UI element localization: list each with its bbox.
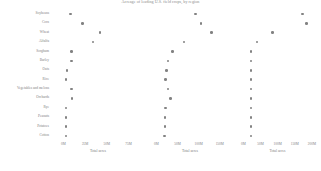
category-label: Orchards xyxy=(36,97,49,101)
data-point xyxy=(250,88,253,91)
x-tick-label: 100M xyxy=(195,142,203,146)
data-point xyxy=(164,125,167,128)
category-label: Soybeans xyxy=(36,12,49,16)
data-point xyxy=(165,69,168,72)
data-point xyxy=(99,31,102,34)
data-point xyxy=(164,116,167,119)
plot-area xyxy=(54,0,142,142)
data-point xyxy=(65,135,68,138)
data-point xyxy=(183,41,186,44)
data-point xyxy=(65,125,68,128)
data-point xyxy=(250,97,253,100)
data-point xyxy=(70,50,73,53)
category-label: Barley xyxy=(40,59,49,63)
x-tick-label: 150M xyxy=(291,142,299,146)
facet-panel-1: 0M25M50M75MTotal acres xyxy=(54,0,142,150)
plot-area xyxy=(234,0,321,142)
data-point xyxy=(171,50,174,53)
data-point xyxy=(210,31,213,34)
x-tick-label: 100M xyxy=(274,142,282,146)
x-tick-label: 0M xyxy=(154,142,159,146)
x-axis-ticks: 0M50M100M150M200M xyxy=(234,142,321,148)
category-label: Sorghum xyxy=(36,50,49,54)
data-point xyxy=(167,88,170,91)
facet-panel-2: 0M50M100M150MTotal acres xyxy=(147,0,233,150)
category-label: Vegetables and melons xyxy=(17,87,49,91)
data-point xyxy=(250,78,253,81)
facet-panel-3: 0M50M100M150M200MTotal acres xyxy=(234,0,321,150)
x-tick-label: 0M xyxy=(241,142,246,146)
data-point xyxy=(66,69,69,72)
x-tick-label: 200M xyxy=(308,142,316,146)
category-label: Corn xyxy=(42,22,49,26)
data-point xyxy=(250,135,253,138)
data-point xyxy=(69,13,72,16)
data-point xyxy=(250,116,253,119)
data-point xyxy=(301,13,304,16)
category-axis: SoybeansCornWheatAlfalfaSorghumBarleyOat… xyxy=(0,0,52,150)
x-tick-label: 0M xyxy=(61,142,66,146)
data-point xyxy=(70,88,73,91)
data-point xyxy=(256,41,259,44)
x-tick-label: 50M xyxy=(257,142,263,146)
data-point xyxy=(250,69,253,72)
data-point xyxy=(169,97,172,100)
data-point xyxy=(200,22,203,25)
data-point xyxy=(250,125,253,128)
category-label: Alfalfa xyxy=(39,40,49,44)
data-point xyxy=(164,78,167,81)
data-point xyxy=(71,97,74,100)
category-label: Wheat xyxy=(40,31,49,35)
data-point xyxy=(164,107,167,110)
data-point xyxy=(194,13,197,16)
data-point xyxy=(305,22,308,25)
x-tick-label: 50M xyxy=(104,142,110,146)
data-point xyxy=(250,60,253,63)
category-label: Peanuts xyxy=(38,115,49,119)
category-label: Potatoes xyxy=(37,125,49,129)
x-tick-label: 150M xyxy=(216,142,224,146)
data-point xyxy=(167,60,170,63)
data-point xyxy=(250,107,253,110)
data-point xyxy=(81,22,84,25)
x-axis-title: Total acres xyxy=(147,149,233,154)
x-axis-title: Total acres xyxy=(54,149,142,154)
x-axis-ticks: 0M50M100M150M xyxy=(147,142,233,148)
data-point xyxy=(70,60,73,63)
data-point xyxy=(65,78,68,81)
data-point xyxy=(65,107,68,110)
x-tick-label: 50M xyxy=(174,142,180,146)
x-axis-ticks: 0M25M50M75M xyxy=(54,142,142,148)
data-point xyxy=(65,116,68,119)
data-point xyxy=(92,41,95,44)
data-point xyxy=(250,50,253,53)
x-tick-label: 75M xyxy=(125,142,131,146)
category-label: Oats xyxy=(43,69,49,73)
dot-plot-figure: Acreage of leading U.S. field crops, by … xyxy=(0,0,321,171)
category-label: Cotton xyxy=(39,134,49,138)
category-label: Rice xyxy=(43,78,49,82)
data-point xyxy=(163,135,166,138)
data-point xyxy=(271,31,274,34)
x-tick-label: 25M xyxy=(82,142,88,146)
x-axis-title: Total acres xyxy=(234,149,321,154)
plot-area xyxy=(147,0,233,142)
category-label: Rye xyxy=(44,106,50,110)
